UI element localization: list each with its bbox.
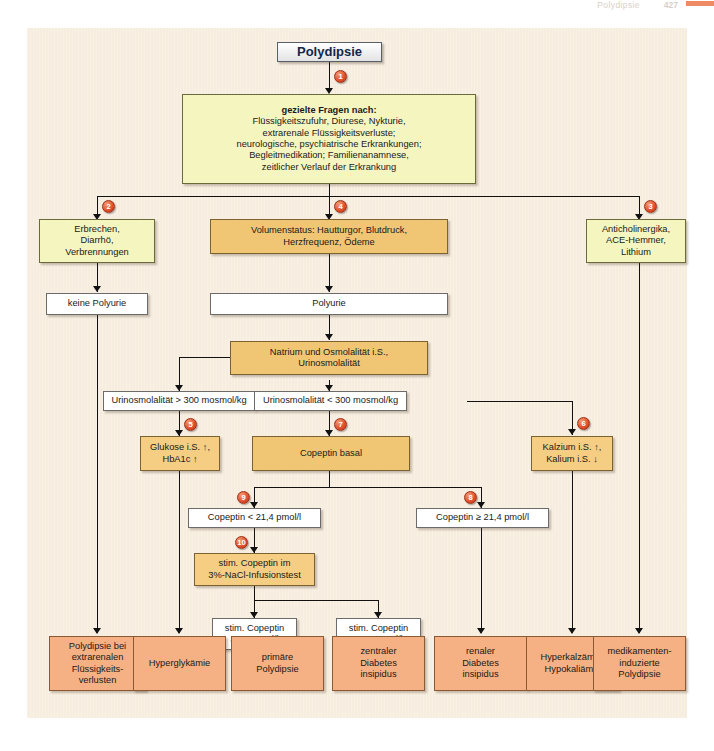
node-urine-osmolality-low[interactable]: Urinosmolalität < 300 mosmol/kg — [254, 391, 407, 411]
node-volume-status[interactable]: Volumenstatus: Hautturgor, Blutdruck, He… — [210, 219, 448, 254]
arrowhead-outcome2 — [175, 628, 183, 634]
outcome-hyperglycemia[interactable]: Hyperglykämie — [133, 636, 226, 691]
badge-3[interactable]: 3 — [644, 200, 657, 213]
vomiting-line-2: Diarrhö, — [80, 235, 113, 245]
arrowhead-nopolyuria — [93, 286, 101, 292]
outcome-drug-induced-polydipsia[interactable]: medikamenten- induzierte Polydipsie — [593, 636, 686, 691]
badge-2[interactable]: 2 — [102, 200, 115, 213]
outcome-central-di-line-2: Diabetes — [360, 658, 397, 668]
node-anticholinergics[interactable]: Anticholinergika, ACE-Hemmer, Lithium — [586, 219, 686, 263]
volume-line-2: Herzfrequenz, Ödeme — [283, 237, 374, 247]
calcium-line-1: Kalzium i.S. ↑, — [543, 442, 602, 452]
arrowhead-outcome7 — [635, 628, 643, 634]
sodium-line-1: Natrium und Osmolalität i.S., — [270, 347, 388, 357]
outcome-central-di-line-3: insipidus — [360, 669, 396, 679]
outcome-extrarenal-line-1: Polydipsie bei — [69, 641, 126, 651]
glucose-line-1: Glukose i.S. ↑, — [150, 442, 210, 452]
drugs-line-2: ACE-Hemmer, — [606, 235, 666, 245]
edge-questions-down — [329, 183, 330, 197]
questions-heading: gezielte Fragen nach: — [281, 105, 376, 115]
edge-copeptin-down — [329, 471, 330, 488]
outcome-renal-di-line-3: insipidus — [462, 669, 498, 679]
vomiting-line-1: Erbrechen, — [74, 224, 119, 234]
volume-line-1: Volumenstatus: Hautturgor, Blutdruck, — [251, 225, 407, 235]
stimtest-line-1: stim. Copeptin im — [219, 558, 291, 568]
stim-ge-line-1: stim. Copeptin — [225, 623, 284, 633]
questions-line-2: extrarenale Flüssigkeitsverluste; — [263, 128, 396, 138]
questions-line-3: neurologische, psychiatrische Erkrankung… — [236, 139, 421, 149]
badge-9[interactable]: 9 — [237, 491, 250, 504]
edge-title-to-questions — [329, 61, 330, 90]
stim-lt-line-1: stim. Copeptin — [349, 623, 408, 633]
node-no-polyuria[interactable]: keine Polyurie — [46, 293, 148, 315]
edge-glucose-to-outcome2 — [179, 471, 180, 633]
arrowhead-outcome5 — [477, 628, 485, 634]
node-targeted-questions[interactable]: gezielte Fragen nach: Flüssigkeitszufuhr… — [182, 94, 476, 184]
edge-nopolyuria-to-outcome1 — [97, 315, 98, 633]
outcome-renal-di-line-1: renaler — [466, 646, 495, 656]
running-head: Polydipsie 427 — [0, 0, 714, 16]
stimtest-line-2: 3%-NaCl-Infusionstest — [208, 570, 301, 580]
chapter-tab-marker — [686, 1, 714, 6]
node-sodium-osmolality[interactable]: Natrium und Osmolalität i.S., Urinosmola… — [230, 341, 428, 375]
questions-line-5: zeitlicher Verlauf der Erkrankung — [262, 162, 396, 172]
arrowhead-calcium — [568, 429, 576, 435]
outcome-drug-induced-line-2: induzierte — [619, 658, 659, 668]
edge-copeptin-split-bus — [254, 487, 482, 488]
edge-stimtest-split-bus — [254, 600, 379, 601]
flowchart-canvas: Polydipsie gezielte Fragen nach: Flüssig… — [27, 28, 687, 718]
outcome-extrarenal[interactable]: Polydipsie bei extrarenalen Flüssigkeits… — [49, 636, 146, 691]
outcome-primary-polydipsia[interactable]: primäre Polydipsie — [231, 636, 324, 691]
questions-line-4: Begleitmedikation; Familienanamnese, — [249, 150, 409, 160]
outcome-primary-polydipsia-line-1: primäre — [262, 652, 294, 662]
arrowhead-sodium — [325, 334, 333, 340]
arrowhead-polyuria — [325, 286, 333, 292]
edge-drugs-to-outcome7 — [639, 262, 640, 633]
node-polyuria[interactable]: Polyurie — [210, 293, 448, 315]
page-root: Polydipsie 427 — [0, 0, 714, 751]
running-head-title: Polydipsie — [597, 0, 640, 10]
node-copeptin-above-threshold[interactable]: Copeptin ≥ 21,4 pmol/l — [416, 508, 549, 528]
outcome-extrarenal-line-2: extrarenalen — [72, 652, 124, 662]
node-stimulation-test[interactable]: stim. Copeptin im 3%-NaCl-Infusionstest — [194, 553, 315, 586]
outcome-drug-induced-line-3: Polydipsie — [618, 669, 660, 679]
outcome-drug-induced-line-1: medikamenten- — [607, 646, 671, 656]
node-glucose-hba1c[interactable]: Glukose i.S. ↑, HbA1c ↑ — [140, 436, 220, 471]
badge-10[interactable]: 10 — [235, 536, 248, 549]
node-copeptin-below-threshold[interactable]: Copeptin < 21,4 pmol/l — [188, 508, 321, 528]
node-urine-osmolality-high[interactable]: Urinosmolalität > 300 mosmol/kg — [103, 391, 255, 411]
drugs-line-3: Lithium — [621, 247, 651, 257]
edge-calcium-to-outcome6 — [572, 471, 573, 633]
arrowhead-outcome1 — [93, 628, 101, 634]
badge-1[interactable]: 1 — [334, 70, 347, 83]
badge-6[interactable]: 6 — [577, 417, 590, 430]
vomiting-line-3: Verbrennungen — [65, 247, 129, 257]
badge-4[interactable]: 4 — [334, 200, 347, 213]
glucose-line-2: HbA1c ↑ — [162, 454, 197, 464]
edge-tier2-bus — [97, 196, 640, 197]
arrowhead-outcome6 — [568, 628, 576, 634]
edge-uosmlow-right-bus — [467, 401, 573, 402]
outcome-primary-polydipsia-line-2: Polydipsie — [256, 664, 298, 674]
badge-5[interactable]: 5 — [184, 418, 197, 431]
outcome-central-diabetes-insipidus[interactable]: zentraler Diabetes insipidus — [332, 636, 425, 691]
node-copeptin-basal[interactable]: Copeptin basal — [252, 436, 410, 471]
outcome-hyperglycemia-line-1: Hyperglykämie — [149, 658, 210, 668]
questions-line-1: Flüssigkeitszufuhr, Diurese, Nykturie, — [253, 116, 406, 126]
drugs-line-1: Anticholinergika, — [602, 224, 670, 234]
outcome-extrarenal-line-3: Flüssigkeits- — [72, 664, 124, 674]
edge-copeptinge-to-outcome5 — [481, 528, 482, 633]
outcome-renal-di-line-2: Diabetes — [462, 658, 499, 668]
calcium-line-2: Kalium i.S. ↓ — [546, 454, 598, 464]
edge-stimtest-down — [254, 586, 255, 601]
node-vomiting-diarrhea-burns[interactable]: Erbrechen, Diarrhö, Verbrennungen — [39, 219, 155, 263]
outcome-central-di-line-1: zentraler — [360, 646, 396, 656]
outcome-renal-diabetes-insipidus[interactable]: renaler Diabetes insipidus — [434, 636, 527, 691]
page-number: 427 — [664, 0, 678, 10]
node-polydipsie-title[interactable]: Polydipsie — [277, 42, 382, 62]
badge-7[interactable]: 7 — [334, 418, 347, 431]
sodium-line-2: Urinosmolalität — [298, 358, 359, 368]
outcome-extrarenal-line-4: verlusten — [79, 675, 117, 685]
badge-8[interactable]: 8 — [464, 491, 477, 504]
node-calcium-potassium[interactable]: Kalzium i.S. ↑, Kalium i.S. ↓ — [531, 436, 613, 471]
